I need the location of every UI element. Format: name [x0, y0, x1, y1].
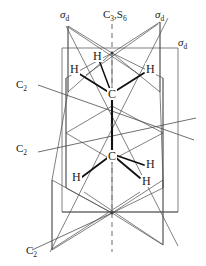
sigma-d-plane-left	[68, 26, 112, 92]
s6-subscript: 6	[123, 14, 127, 23]
s6-letter: ,S	[114, 8, 123, 20]
atom-label-hydrogen-top-2: H	[69, 63, 80, 75]
bond-bottom-c-h1	[82, 156, 110, 177]
atom-label-carbon-top: C	[107, 88, 117, 100]
atom-label-hydrogen-top-3: H	[145, 63, 156, 75]
label-c2-bottom-left: C2	[26, 245, 37, 259]
atom-label-hydrogen-bottom-2: H	[145, 158, 156, 170]
c2-axes	[32, 85, 196, 250]
label-c3-s6-axis: C3,S6	[103, 9, 127, 23]
label-sigma-d-right: σd	[178, 37, 187, 51]
sigma-subscript-top-left: d	[65, 14, 69, 23]
c2-subscript-bottom-left: 2	[33, 250, 37, 259]
label-sigma-d-top-left: σd	[60, 9, 69, 23]
c2-subscript-upper-left: 2	[23, 84, 27, 93]
symmetry-diagram-svg	[0, 0, 206, 266]
label-sigma-d-top-right: σd	[155, 9, 164, 23]
sigma-subscript-top-right: d	[160, 14, 164, 23]
sigma-subscript-right: d	[183, 42, 187, 51]
atom-label-hydrogen-bottom-3: H	[141, 175, 152, 187]
node-top	[111, 52, 114, 55]
sigma-d-right-diag-a	[160, 92, 163, 180]
atom-label-carbon-bottom: C	[107, 150, 117, 162]
c2-axis-diagonal-bottom	[32, 213, 112, 250]
label-c2-upper-left: C2	[16, 79, 27, 93]
label-c2-mid-left: C2	[16, 143, 27, 157]
sigma-d-left-diag-a	[52, 92, 68, 180]
sigma-d-plane-left-lower	[52, 180, 112, 250]
bond-top-c-h3	[114, 73, 144, 92]
sigma-d-plane-right-lower	[112, 180, 163, 245]
atom-label-hydrogen-bottom-1: H	[71, 171, 82, 183]
node-bottom	[111, 212, 114, 215]
atom-label-hydrogen-top-1: H	[92, 50, 103, 62]
ethane-symmetry-figure: σd C3,S6 σd σd C2 C2 C2 H H H C C H H H	[0, 0, 206, 266]
c2-subscript-mid-left: 2	[23, 148, 27, 157]
node-center	[111, 124, 114, 127]
trace-line-bottom-right	[84, 192, 162, 244]
